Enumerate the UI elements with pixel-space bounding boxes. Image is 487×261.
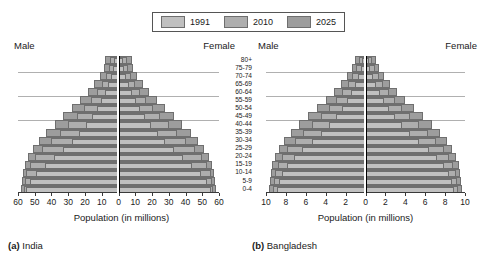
x-tick xyxy=(366,193,367,196)
male-side xyxy=(18,177,119,185)
female-side xyxy=(119,56,220,64)
male-side xyxy=(18,112,119,120)
x-tick-label: 6 xyxy=(303,197,308,207)
x-tick-label: 60 xyxy=(13,197,22,207)
female-side xyxy=(366,161,466,169)
age-label-50-54: 50-54 xyxy=(218,105,252,112)
x-tick-label: 50 xyxy=(198,197,207,207)
male-side xyxy=(266,137,366,145)
female-side xyxy=(119,161,220,169)
legend-swatch-2025 xyxy=(287,16,311,28)
male-side xyxy=(266,56,366,64)
age-label-35-39: 35-39 xyxy=(218,129,252,136)
male-side xyxy=(18,161,119,169)
x-tick xyxy=(445,193,446,196)
center-axis-line xyxy=(119,56,120,193)
female-side xyxy=(366,129,466,137)
x-tick xyxy=(346,193,347,196)
female-side xyxy=(119,88,220,96)
female-label-india: Female xyxy=(203,40,235,51)
x-tick xyxy=(465,193,466,196)
legend-item-1991[interactable]: 1991 xyxy=(161,16,210,28)
female-side xyxy=(366,120,466,128)
female-side xyxy=(366,96,466,104)
male-side xyxy=(266,169,366,177)
x-tick-label: 0 xyxy=(363,197,368,207)
female-side xyxy=(119,72,220,80)
male-label-bangladesh: Male xyxy=(258,40,279,51)
female-side xyxy=(366,80,466,88)
age-label-0-4: 0-4 xyxy=(218,186,252,193)
legend-item-2025[interactable]: 2025 xyxy=(287,16,336,28)
female-side xyxy=(366,137,466,145)
male-side xyxy=(18,104,119,112)
x-tick-label: 10 xyxy=(261,197,270,207)
male-side xyxy=(266,177,366,185)
male-side xyxy=(18,129,119,137)
x-tick xyxy=(202,193,203,196)
male-side xyxy=(18,169,119,177)
age-group-labels: 80+75-7970-7465-6960-6455-5950-5445-4940… xyxy=(218,56,252,193)
age-label-30-34: 30-34 xyxy=(218,137,252,144)
female-side xyxy=(366,169,466,177)
female-side xyxy=(119,169,220,177)
x-tick-label: 2 xyxy=(383,197,388,207)
x-tick xyxy=(169,193,170,196)
plot-area-india xyxy=(18,56,219,193)
age-label-80plus: 80+ xyxy=(218,57,252,64)
female-side xyxy=(366,153,466,161)
female-side xyxy=(366,88,466,96)
age-label-5-9: 5-9 xyxy=(218,178,252,185)
x-tick-label: 40 xyxy=(47,197,56,207)
age-label-25-29: 25-29 xyxy=(218,145,252,152)
x-tick xyxy=(326,193,327,196)
plot-area-bangladesh xyxy=(266,56,465,193)
age-label-40-44: 40-44 xyxy=(218,121,252,128)
female-side xyxy=(119,80,220,88)
male-side xyxy=(18,64,119,72)
male-side xyxy=(266,129,366,137)
center-axis-line xyxy=(366,56,367,193)
x-tick xyxy=(18,193,19,196)
male-side xyxy=(266,64,366,72)
panel-india: Male Female 6050403020100102030405060 Po… xyxy=(0,40,243,240)
female-label-bangladesh: Female xyxy=(445,40,477,51)
male-side xyxy=(266,88,366,96)
female-side xyxy=(366,104,466,112)
x-tick-label: 10 xyxy=(97,197,106,207)
legend-swatch-1991 xyxy=(161,16,185,28)
male-side xyxy=(18,56,119,64)
male-side xyxy=(266,104,366,112)
female-side xyxy=(119,64,220,72)
x-tick xyxy=(85,193,86,196)
x-tick-label: 4 xyxy=(323,197,328,207)
x-tick-label: 40 xyxy=(181,197,190,207)
male-side xyxy=(266,161,366,169)
legend-swatch-2010 xyxy=(224,16,248,28)
x-tick xyxy=(385,193,386,196)
x-tick xyxy=(425,193,426,196)
x-tick-label: 8 xyxy=(443,197,448,207)
x-tick-label: 10 xyxy=(131,197,140,207)
x-tick xyxy=(219,193,220,196)
legend-item-2010[interactable]: 2010 xyxy=(224,16,273,28)
caption-name: Bangladesh xyxy=(264,240,317,251)
male-side xyxy=(18,80,119,88)
x-tick-label: 4 xyxy=(403,197,408,207)
legend-label-2025: 2025 xyxy=(316,17,336,27)
female-side xyxy=(119,96,220,104)
female-side xyxy=(366,64,466,72)
x-tick xyxy=(35,193,36,196)
x-tick xyxy=(51,193,52,196)
x-tick-labels-india: 6050403020100102030405060 xyxy=(18,197,219,209)
caption-india: (a) India xyxy=(8,240,43,251)
age-label-55-59: 55-59 xyxy=(218,97,252,104)
age-label-65-69: 65-69 xyxy=(218,81,252,88)
male-label-india: Male xyxy=(14,40,35,51)
population-pyramid-figure: 199120102025 Male Female 605040302010010… xyxy=(0,0,487,261)
caption-marker: (a) xyxy=(8,240,20,251)
male-side xyxy=(18,96,119,104)
female-side xyxy=(119,145,220,153)
x-tick xyxy=(306,193,307,196)
x-tick-label: 10 xyxy=(460,197,469,207)
